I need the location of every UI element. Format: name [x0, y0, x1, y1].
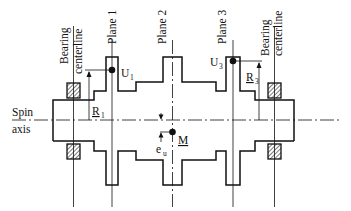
u1-label: U 1 [121, 67, 134, 82]
r3-label: R 3 [246, 71, 259, 86]
svg-text:u: u [163, 149, 167, 158]
bearing-right-label-1: Bearing [259, 19, 272, 56]
unbalance-u3 [230, 58, 237, 65]
bearing-left-label-2: centerline [72, 29, 84, 74]
svg-text:3: 3 [255, 77, 259, 86]
svg-text:1: 1 [130, 73, 134, 82]
label-bearing-right: Bearing centerline [259, 11, 284, 56]
svg-text:R: R [246, 71, 254, 83]
r1-label: R 1 [92, 105, 105, 120]
spin-label-2: axis [12, 123, 31, 135]
mass-m [169, 129, 176, 136]
plane1-label: Plane 1 [106, 10, 118, 44]
bearing-right-label-2: centerline [272, 11, 284, 56]
spin-label-1: Spin [12, 106, 33, 119]
m-label: M [178, 134, 188, 146]
svg-text:R: R [92, 105, 100, 117]
u3-label: U 3 [210, 56, 223, 71]
unbalance-u1 [109, 67, 116, 74]
label-bearing-left: Bearing centerline [58, 27, 84, 74]
eu-label: e u [156, 143, 167, 158]
bearing-left-label-1: Bearing [58, 27, 71, 64]
svg-text:3: 3 [219, 62, 223, 71]
svg-text:e: e [156, 143, 161, 155]
svg-text:U: U [121, 67, 130, 79]
rotor-diagram: Bearing centerline Bearing centerline Pl… [0, 0, 351, 211]
plane2-label: Plane 2 [156, 10, 168, 44]
plane3-label: Plane 3 [216, 10, 228, 44]
svg-text:1: 1 [101, 111, 105, 120]
eu-dimension [159, 113, 171, 142]
svg-text:U: U [210, 56, 219, 68]
